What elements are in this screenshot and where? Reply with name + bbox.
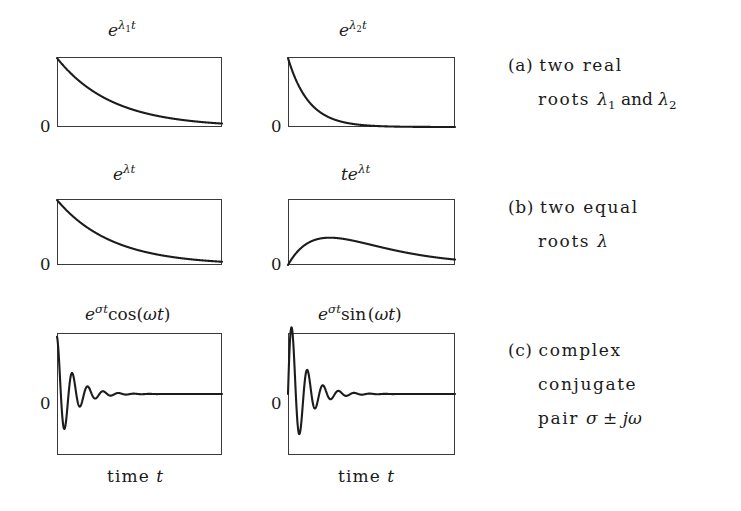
caption-a-text-2: roots xyxy=(538,89,597,109)
zero-label-exp-lambda2-t: 0 xyxy=(271,119,282,136)
caption-a-line-2: roots λ1 and λ2 xyxy=(508,91,677,112)
caption-b-line-2: roots λ xyxy=(508,233,608,250)
caption-b-text-2: roots xyxy=(538,231,597,251)
zero-label-damped-sine: 0 xyxy=(271,396,282,413)
caption-b-tag: (b) xyxy=(508,197,540,217)
caption-c-text-1: complex xyxy=(539,340,622,360)
caption-c-line-2: conjugate xyxy=(508,376,637,393)
axis-label-symbol: t xyxy=(387,466,395,486)
plot-panel-exp-lambda2-t xyxy=(288,57,455,127)
curve-line xyxy=(57,58,222,124)
curve-line xyxy=(288,58,455,127)
axis-label-text: time xyxy=(107,466,156,486)
plot-panel-t-exp-lambda-t xyxy=(288,199,455,265)
curve-line xyxy=(57,200,222,262)
caption-c-line-1: (c) complex xyxy=(508,342,622,359)
plot-title-damped-cosine: eσtcos(ωt) xyxy=(85,306,170,323)
axis-label-symbol: t xyxy=(156,466,164,486)
curve-line xyxy=(57,337,222,429)
zero-label-exp-lambda-t: 0 xyxy=(40,257,51,274)
caption-c-text-3: pair xyxy=(538,408,586,428)
plot-panel-damped-cosine xyxy=(57,333,222,455)
plot-title-exp-lambda1-t: eλ1t xyxy=(108,22,136,39)
axis-label-text: time xyxy=(338,466,387,486)
caption-b-line-1: (b) two equal xyxy=(508,199,639,216)
time-axis-right: time t xyxy=(338,466,395,486)
plot-title-t-exp-lambda-t: teλt xyxy=(341,166,370,183)
caption-c-symbols-3: σ ± jω xyxy=(586,408,642,428)
curve-line xyxy=(288,238,455,265)
time-axis-left: time t xyxy=(107,466,164,486)
plot-curve-exp-lambda2-t xyxy=(288,57,455,127)
caption-c-line-3: pair σ ± jω xyxy=(508,410,642,427)
zero-label-t-exp-lambda-t: 0 xyxy=(271,257,282,274)
plot-title-exp-lambda-t: eλt xyxy=(113,166,135,183)
plot-curve-exp-lambda-t xyxy=(57,199,222,265)
curve-line xyxy=(288,327,455,434)
plot-curve-damped-sine xyxy=(288,333,455,455)
caption-a-line-1: (a) two real xyxy=(508,57,623,74)
caption-b-symbols-2: λ xyxy=(597,231,608,251)
figure-root: eλ1t0eλ2t0eλt0teλt0eσtcos(ωt)0eσtsin (ωt… xyxy=(0,0,741,511)
caption-a-symbols-2: λ1 and λ2 xyxy=(597,89,677,109)
plot-curve-t-exp-lambda-t xyxy=(288,199,455,265)
plot-curve-damped-cosine xyxy=(57,333,222,455)
caption-a-tag: (a) xyxy=(508,55,539,75)
plot-title-damped-sine: eσtsin (ωt) xyxy=(318,306,402,323)
zero-label-damped-cosine: 0 xyxy=(40,396,51,413)
plot-panel-exp-lambda1-t xyxy=(57,57,222,127)
plot-panel-damped-sine xyxy=(288,333,455,455)
zero-label-exp-lambda1-t: 0 xyxy=(40,119,51,136)
plot-curve-exp-lambda1-t xyxy=(57,57,222,127)
caption-a-text-1: two real xyxy=(539,55,623,75)
caption-c-tag: (c) xyxy=(508,340,539,360)
plot-panel-exp-lambda-t xyxy=(57,199,222,265)
plot-title-exp-lambda2-t: eλ2t xyxy=(339,22,367,39)
caption-b-text-1: two equal xyxy=(540,197,639,217)
caption-c-text-2: conjugate xyxy=(538,374,637,394)
